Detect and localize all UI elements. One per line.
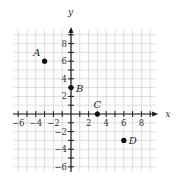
y-tick-label: −4 (54, 144, 67, 154)
x-tick-label: 6 (121, 118, 126, 128)
axes: x y (13, 7, 170, 172)
y-axis-label: y (67, 7, 74, 17)
x-tick-label: −6 (12, 118, 25, 128)
y-tick-label: 6 (62, 56, 67, 66)
point-label: A (32, 47, 40, 58)
y-tick-label: 2 (62, 91, 67, 101)
x-axis-arrow-icon (152, 112, 158, 117)
point-label: C (94, 99, 102, 110)
coordinate-plane: x y −6−4−22468−6−4−22468 ABCD (0, 0, 176, 177)
x-tick-label: 4 (103, 118, 108, 128)
point-marker-icon (68, 85, 73, 90)
point-label: D (128, 135, 137, 146)
x-tick-label: 2 (86, 118, 91, 128)
point-marker-icon (42, 59, 47, 64)
point-marker-icon (95, 111, 100, 116)
y-axis-arrow-icon (69, 27, 74, 33)
y-tick-label: −2 (54, 127, 67, 137)
x-axis-label: x (165, 109, 170, 119)
x-tick-label: 8 (139, 118, 144, 128)
x-tick-label: −4 (30, 118, 43, 128)
y-tick-label: 8 (62, 39, 67, 49)
y-tick-label: 4 (62, 74, 67, 84)
point-marker-icon (121, 138, 126, 143)
point-label: B (75, 83, 83, 94)
y-tick-label: −6 (54, 162, 67, 172)
